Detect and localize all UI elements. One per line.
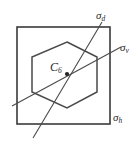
c6-symbol: C — [50, 60, 58, 74]
c6-center-dot — [65, 72, 69, 76]
inner-hexagon — [32, 42, 97, 108]
sigma-d-subscript: d — [101, 14, 105, 23]
sigma-h-label: σh — [113, 112, 122, 124]
sigma-d-label: σd — [96, 10, 105, 22]
outer-square — [17, 27, 110, 124]
sigma-v-mirror-line — [12, 47, 121, 106]
sigma-v-subscript: v — [125, 46, 128, 55]
sigma-v-label: σv — [120, 42, 129, 54]
sigma-d-mirror-line — [33, 22, 102, 138]
c6-axis-label: C6 — [50, 61, 62, 74]
sigma-h-subscript: h — [118, 116, 122, 125]
symmetry-figure: σd σv σh C6 — [0, 0, 139, 141]
c6-subscript: 6 — [58, 66, 62, 75]
